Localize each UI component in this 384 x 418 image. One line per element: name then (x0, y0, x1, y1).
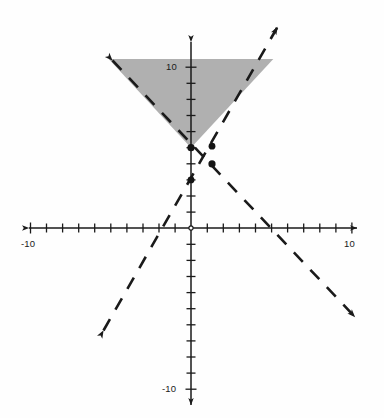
x-axis-label-negative: -10 (21, 238, 35, 249)
origin-marker (189, 226, 193, 230)
y-axis-label-positive: 10 (166, 61, 177, 72)
point-right-lower (208, 160, 215, 167)
point-y-intercept-5 (187, 144, 194, 151)
graph-canvas: -10 10 10 -10 (0, 0, 384, 418)
y-axis-label-negative: -10 (162, 383, 176, 394)
x-axis-label-positive: 10 (344, 238, 355, 249)
coordinate-plane-plot (0, 0, 384, 418)
point-right-upper (209, 143, 216, 150)
point-y-intercept-3 (188, 177, 195, 184)
